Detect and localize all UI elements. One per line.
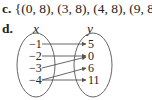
mapping-arrows xyxy=(42,44,86,80)
domain-value: −4 xyxy=(29,73,42,87)
arrow-neg3-to-0 xyxy=(42,57,86,68)
range-value: 11 xyxy=(88,73,100,87)
arrow-neg4-to-6 xyxy=(42,68,86,80)
mapping-diagram: −1 −2 −3 −4 5 0 6 11 xyxy=(0,0,152,100)
